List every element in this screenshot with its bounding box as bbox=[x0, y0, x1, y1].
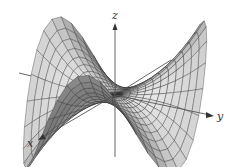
y-axis-arrowhead bbox=[206, 112, 214, 118]
x-axis-label: x bbox=[27, 137, 34, 150]
surface-plot: z y x bbox=[0, 0, 235, 167]
z-axis-label: z bbox=[111, 9, 118, 22]
y-axis-label: y bbox=[216, 110, 224, 123]
z-axis-arrowhead bbox=[113, 23, 118, 30]
